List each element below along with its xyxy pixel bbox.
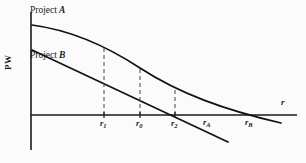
x-tick-label-r2-sub: 2 <box>174 122 177 129</box>
annotation-project-a-symbol: A <box>57 5 65 15</box>
x-tick-label-ra-sub: A <box>206 121 210 128</box>
annotation-project-b: ProjectB <box>30 51 65 61</box>
annotation-project-a-text: Project <box>30 5 57 15</box>
chart-background <box>0 0 306 163</box>
x-tick-label-r1-sub: 1 <box>103 122 106 129</box>
x-tick-label-r0-sub: 0 <box>139 122 142 129</box>
x-tick-label-r0: r0 <box>136 119 143 128</box>
x-tick-label-r1: r1 <box>100 119 107 128</box>
y-axis-label: PW <box>3 55 13 70</box>
x-tick-label-r2: r2 <box>171 119 178 128</box>
x-tick-label-ra: rA <box>203 118 211 127</box>
x-tick-label-rb-sub: B <box>248 121 252 128</box>
annotation-project-b-text: Project <box>30 50 57 60</box>
present-worth-chart <box>0 0 306 163</box>
x-axis-label: r <box>281 98 285 107</box>
annotation-project-a: ProjectA <box>30 6 65 16</box>
x-tick-label-rb: rB <box>245 118 253 127</box>
annotation-project-b-symbol: B <box>57 50 65 60</box>
